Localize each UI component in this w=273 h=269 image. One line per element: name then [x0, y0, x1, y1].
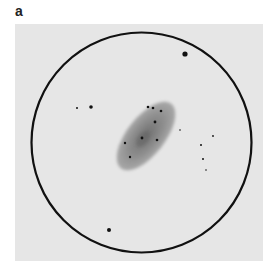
star [182, 51, 187, 56]
star [212, 135, 214, 137]
star [202, 158, 204, 160]
star [200, 144, 202, 146]
galaxy [106, 92, 186, 180]
star [89, 105, 93, 109]
star [107, 228, 111, 232]
star [154, 121, 157, 124]
star [147, 106, 150, 109]
star [160, 110, 163, 113]
star [156, 139, 159, 142]
star [205, 169, 207, 171]
star [152, 107, 155, 110]
telescope-field-drawing [0, 0, 273, 269]
star [179, 129, 181, 131]
star [76, 107, 78, 109]
star [129, 156, 131, 158]
star [141, 137, 144, 140]
star [124, 142, 126, 144]
